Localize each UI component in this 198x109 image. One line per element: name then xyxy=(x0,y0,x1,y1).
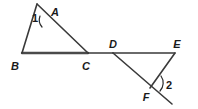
angle-label-1: 1 xyxy=(32,12,38,24)
vertex-label-F: F xyxy=(143,91,150,103)
angle-2-arc xyxy=(160,76,163,91)
angle-1-arc xyxy=(39,16,42,27)
geometry-canvas: A B C D E F 1 2 xyxy=(0,0,198,109)
vertex-label-D: D xyxy=(109,38,117,50)
vertex-label-C: C xyxy=(82,60,91,72)
segment-AC xyxy=(37,4,88,53)
vertex-label-B: B xyxy=(11,60,19,72)
angle-label-2: 2 xyxy=(166,79,172,91)
vertex-label-A: A xyxy=(50,6,59,18)
vertex-label-E: E xyxy=(173,38,181,50)
geometry-figure: A B C D E F 1 2 xyxy=(0,0,198,109)
